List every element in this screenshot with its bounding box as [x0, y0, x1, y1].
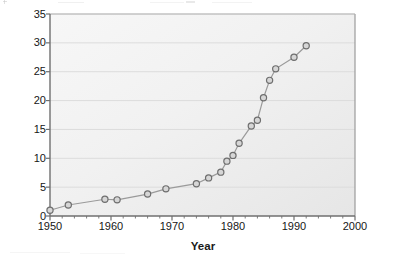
data-point [260, 95, 266, 101]
data-point [273, 66, 279, 72]
data-point [114, 197, 120, 203]
data-point [248, 123, 254, 129]
data-point [236, 140, 242, 146]
data-point [303, 43, 309, 49]
x-axis-title: Year [50, 240, 356, 252]
x-axis-tick-label: 1970 [150, 220, 194, 232]
x-axis-tick-label: 1960 [89, 220, 133, 232]
data-point [254, 117, 260, 123]
data-point [65, 202, 71, 208]
chart-figure: Number of journals 05101520253035 195019… [0, 0, 399, 263]
data-point [145, 191, 151, 197]
data-point [224, 158, 230, 164]
data-point [47, 207, 53, 213]
data-point [193, 181, 199, 187]
data-point [267, 77, 273, 83]
data-point [102, 196, 108, 202]
data-point [206, 175, 212, 181]
x-axis-tick-label: 1980 [211, 220, 255, 232]
data-point [291, 54, 297, 60]
data-point [163, 186, 169, 192]
data-point [230, 152, 236, 158]
x-axis-tick-label: 2000 [333, 220, 377, 232]
data-point [218, 169, 224, 175]
x-axis-tick-label: 1950 [28, 220, 72, 232]
x-axis-tick-label: 1990 [272, 220, 316, 232]
